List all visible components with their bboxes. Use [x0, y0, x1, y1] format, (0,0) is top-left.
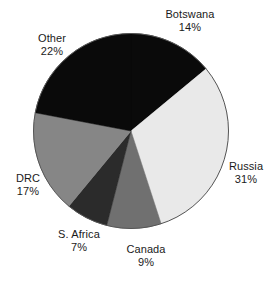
slice-label-south-africa: S. Africa 7% [40, 228, 118, 254]
slice-label-russia-name: Russia [218, 160, 274, 173]
slice-label-botswana-name: Botswana [145, 8, 235, 21]
slice-label-canada: Canada 9% [110, 243, 182, 269]
slice-label-other-name: Other [12, 32, 92, 45]
slice-label-drc-name: DRC [2, 172, 54, 185]
slice-label-other-percent: 22% [12, 45, 92, 58]
slice-label-russia: Russia 31% [218, 160, 274, 186]
slice-label-south-africa-name: S. Africa [40, 228, 118, 241]
pie-chart-figure: Botswana 14% Other 22% Russia 31% DRC 17… [0, 0, 275, 281]
slice-label-drc-percent: 17% [2, 185, 54, 198]
slice-label-south-africa-percent: 7% [40, 241, 118, 254]
slice-label-russia-percent: 31% [218, 173, 274, 186]
slice-label-drc: DRC 17% [2, 172, 54, 198]
pie-slice-group [34, 34, 229, 229]
slice-label-other: Other 22% [12, 32, 92, 58]
slice-label-botswana-percent: 14% [145, 21, 235, 34]
slice-label-canada-name: Canada [110, 243, 182, 256]
slice-label-canada-percent: 9% [110, 256, 182, 269]
slice-label-botswana: Botswana 14% [145, 8, 235, 34]
